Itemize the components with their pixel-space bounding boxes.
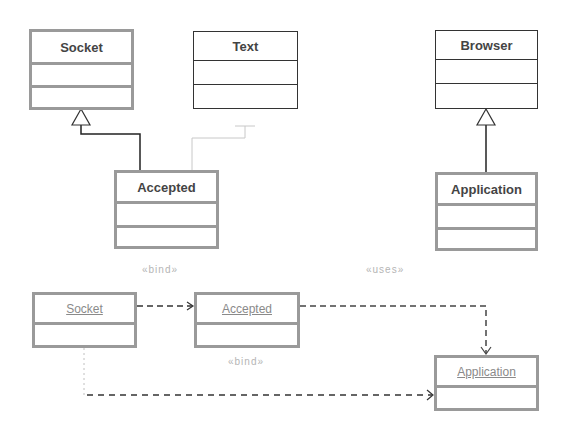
class-browser[interactable]: Browser <box>435 30 538 109</box>
class-socket[interactable]: Socket <box>29 29 134 110</box>
attributes-compartment <box>197 322 297 345</box>
attributes-compartment <box>437 385 536 408</box>
class-accepted[interactable]: Accepted <box>114 170 219 249</box>
stereotype-bind-label: «bind» <box>142 264 178 275</box>
operations-compartment <box>32 85 131 107</box>
stereotype-uses-label: «uses» <box>366 264 404 275</box>
class-name: Accepted <box>117 173 216 201</box>
operations-compartment <box>438 227 535 248</box>
object-name: Accepted <box>197 295 297 322</box>
attributes-compartment <box>32 62 131 85</box>
object-name: Socket <box>35 295 134 322</box>
object-socket[interactable]: Socket <box>32 292 137 348</box>
class-application[interactable]: Application <box>435 172 538 251</box>
object-name: Application <box>437 358 536 385</box>
dependency-accepted-application <box>300 306 486 353</box>
attributes-compartment <box>194 60 297 84</box>
object-accepted[interactable]: Accepted <box>194 292 300 348</box>
uml-diagram-canvas: Socket Text Accepted Browser Application… <box>0 0 565 427</box>
operations-compartment <box>436 83 537 107</box>
hollow-triangle-icon <box>477 109 495 125</box>
operations-compartment <box>194 84 297 107</box>
class-name: Application <box>438 175 535 203</box>
class-name: Text <box>194 32 297 60</box>
object-application[interactable]: Application <box>434 355 539 411</box>
attributes-compartment <box>117 201 216 225</box>
class-name: Browser <box>436 31 537 59</box>
realization-accepted-text <box>192 126 245 170</box>
class-name: Socket <box>32 32 131 62</box>
attributes-compartment <box>438 203 535 227</box>
attributes-compartment <box>436 59 537 83</box>
hollow-triangle-icon <box>72 109 90 125</box>
generalization-accepted-socket <box>81 125 140 170</box>
stereotype-bind-label: «bind» <box>228 356 264 367</box>
attributes-compartment <box>35 322 134 345</box>
class-text[interactable]: Text <box>193 31 298 109</box>
operations-compartment <box>117 225 216 246</box>
